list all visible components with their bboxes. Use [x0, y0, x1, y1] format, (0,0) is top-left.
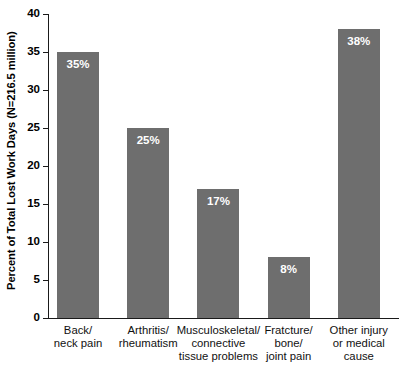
y-axis-tick-mark: [43, 166, 48, 167]
y-axis-title: Percent of Total Lost Work Days (N=216.5…: [0, 0, 22, 322]
bar-value-label: 25%: [127, 135, 169, 147]
bar-value-label: 38%: [338, 36, 380, 48]
bar-value-label: 35%: [57, 59, 99, 71]
bar-slot: 38%: [338, 14, 380, 318]
bar-slot: 17%: [197, 14, 239, 318]
y-axis-tick-mark: [43, 242, 48, 243]
x-axis-category-label: Other injuryor medicalcause: [317, 324, 401, 364]
y-axis-tick-mark: [43, 318, 48, 319]
bar-chart: Percent of Total Lost Work Days (N=216.5…: [0, 0, 411, 379]
category-label-line: or medical: [317, 337, 401, 350]
category-label-line: cause: [317, 350, 401, 363]
plot-area: 0510152025303540 35%25%17%8%38%: [48, 14, 411, 319]
bar[interactable]: 38%: [338, 29, 380, 318]
x-axis-category-labels: Back/neck painArthritis/rheumatismMuscul…: [49, 324, 411, 379]
y-axis-tick-label: 5: [34, 274, 40, 286]
y-axis-title-text: Percent of Total Lost Work Days (N=216.5…: [5, 32, 16, 291]
bar-slot: 25%: [127, 14, 169, 318]
bar-value-label: 8%: [268, 264, 310, 276]
bar[interactable]: 25%: [127, 128, 169, 318]
y-axis-tick-mark: [43, 280, 48, 281]
category-label-line: Other injury: [317, 324, 401, 337]
y-axis-tick-mark: [43, 52, 48, 53]
bar[interactable]: 8%: [268, 257, 310, 318]
bar-slot: 8%: [268, 14, 310, 318]
y-axis-tick-mark: [43, 128, 48, 129]
bars-layer: 35%25%17%8%38%: [49, 14, 411, 318]
x-axis-line: [48, 318, 399, 319]
y-axis-tick-label: 10: [27, 236, 40, 248]
bar[interactable]: 17%: [197, 189, 239, 318]
y-axis-tick-mark: [43, 90, 48, 91]
y-axis-tick-label: 0: [34, 312, 40, 324]
y-axis-tick-label: 25: [27, 122, 40, 134]
y-axis-tick-label: 30: [27, 84, 40, 96]
bar-value-label: 17%: [197, 196, 239, 208]
y-axis-tick-label: 20: [27, 160, 40, 172]
y-axis-tick-mark: [43, 204, 48, 205]
bar-slot: 35%: [57, 14, 99, 318]
y-axis-tick-label: 35: [27, 46, 40, 58]
bar[interactable]: 35%: [57, 52, 99, 318]
y-axis-tick-mark: [43, 14, 48, 15]
y-axis-tick-label: 40: [27, 8, 40, 20]
y-axis-tick-label: 15: [27, 198, 40, 210]
